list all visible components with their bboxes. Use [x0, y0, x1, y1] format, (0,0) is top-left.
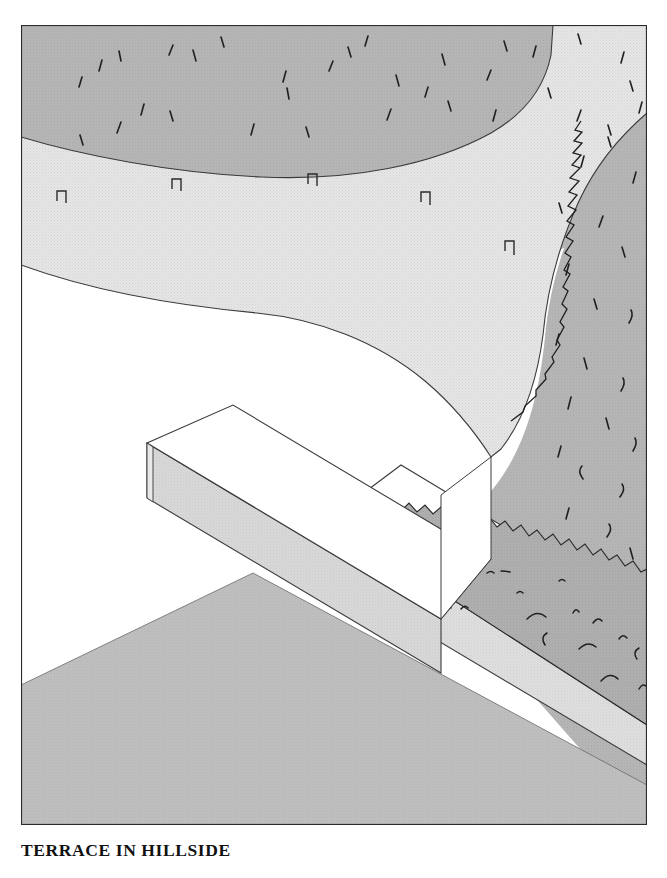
figure-caption: TERRACE IN HILLSIDE — [21, 840, 641, 861]
illustration-page: TERRACE IN HILLSIDE — [0, 0, 667, 878]
figure-frame — [21, 25, 647, 825]
terrace-in-hillside-drawing — [21, 25, 647, 825]
